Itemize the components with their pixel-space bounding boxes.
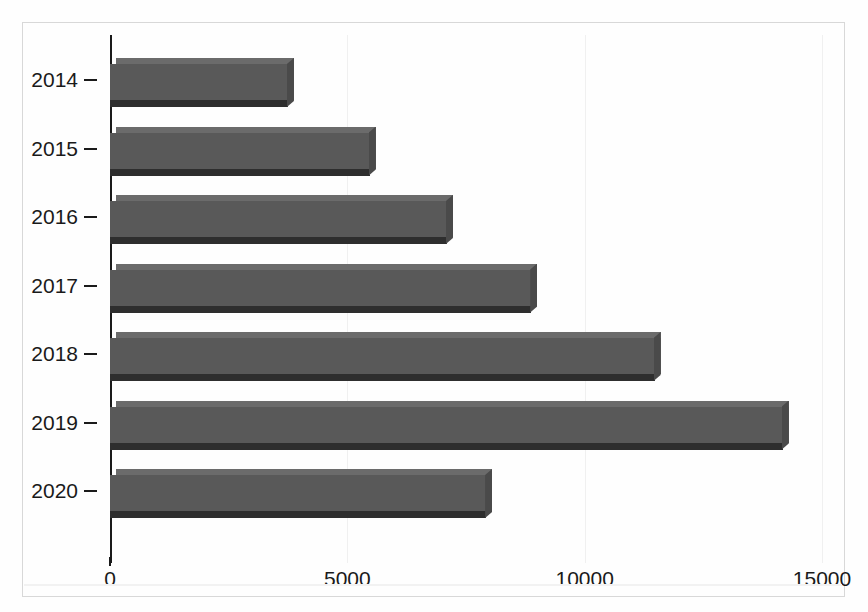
y-tick-mark <box>84 79 97 81</box>
y-tick-label: 2016 <box>0 206 78 227</box>
bar-chart: 2014201520162017201820192020 05000100001… <box>0 0 868 612</box>
bar-side-face <box>369 127 376 176</box>
bar <box>110 401 789 449</box>
gridline-15000 <box>822 35 823 563</box>
bar-side-face <box>530 264 537 313</box>
bar-side-face <box>287 58 294 107</box>
bar <box>110 332 661 380</box>
bar-side-face <box>446 195 453 244</box>
bar-side-face <box>654 332 661 381</box>
y-tick-mark <box>84 148 97 150</box>
bar-face <box>110 133 376 169</box>
bar-shadow-edge <box>110 511 486 518</box>
bar-side-face <box>485 469 492 518</box>
y-tick-label: 2018 <box>0 343 78 364</box>
y-tick-label: 2014 <box>0 69 78 90</box>
y-tick-label: 2020 <box>0 480 78 501</box>
bar-shadow-edge <box>110 237 447 244</box>
bar <box>110 195 453 243</box>
bar-face <box>110 201 453 237</box>
y-tick-mark <box>84 285 97 287</box>
baseline-divider <box>24 584 842 586</box>
y-tick-mark <box>84 216 97 218</box>
y-tick-label: 2015 <box>0 138 78 159</box>
bar-shadow-edge <box>110 374 655 381</box>
bar-shadow-edge <box>110 306 531 313</box>
bar <box>110 127 376 175</box>
bar <box>110 264 537 312</box>
y-tick-label: 2019 <box>0 412 78 433</box>
bar-shadow-edge <box>110 100 288 107</box>
y-tick-label: 2017 <box>0 275 78 296</box>
bar-side-face <box>782 401 789 450</box>
bar <box>110 469 492 517</box>
bar-face <box>110 338 661 374</box>
bar-shadow-edge <box>110 169 370 176</box>
gridline-10000 <box>585 35 586 563</box>
bar-face <box>110 407 789 443</box>
bar-shadow-edge <box>110 443 783 450</box>
y-tick-mark <box>84 353 97 355</box>
y-tick-mark <box>84 422 97 424</box>
bar-face <box>110 270 537 306</box>
bar-face <box>110 475 492 511</box>
y-tick-mark <box>84 490 97 492</box>
bar <box>110 58 294 106</box>
x-tick-mark <box>109 557 111 566</box>
bar-face <box>110 64 294 100</box>
